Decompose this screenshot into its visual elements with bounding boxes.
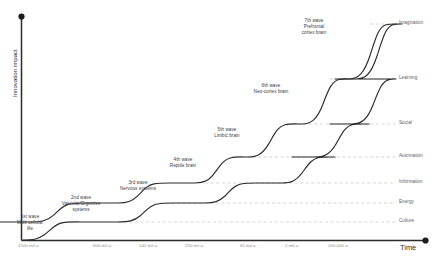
innovation-waves-diagram: Innovation impact Time Imagination Learn… — [0, 0, 443, 263]
gridlines — [118, 24, 396, 222]
level-label-information: Information — [399, 179, 423, 184]
wave-label-4: 4th wave Reptile brain — [157, 157, 209, 169]
level-label-imagination: Imagination — [399, 20, 423, 25]
level-label-energy: Energy — [399, 199, 414, 204]
x-tick-2: 2 mil a. — [285, 243, 299, 248]
wave-label-2: 2nd wave Vascular/Digestive systems — [50, 195, 112, 213]
level-label-culture: Culture — [399, 218, 414, 223]
wave-label-5: 5th wave Limbic brain — [201, 127, 253, 139]
wave-label-7: 7th wave Prefrontal cortex brain — [290, 18, 338, 36]
level-label-automation: Automation — [399, 153, 423, 158]
level-label-social: Social — [399, 120, 412, 125]
level-label-learning: Learning — [399, 75, 417, 80]
x-tick-200k: 200.000 a. — [328, 243, 349, 248]
x-axis-cap-dot — [422, 237, 428, 243]
y-axis-title: Innovation impact — [11, 49, 18, 97]
x-axis-title: Time — [400, 243, 416, 252]
wave-label-3: 3rd wave Nervous systems — [110, 180, 166, 192]
y-axis-cap-dot — [18, 13, 24, 19]
x-tick-542: 542 mil a. — [139, 243, 158, 248]
x-tick-600: 600 mil a. — [93, 243, 112, 248]
x-axis — [22, 237, 429, 243]
wave-label-1: 1st wave Multi cellular life — [6, 214, 54, 232]
x-tick-250: 250 mil a. — [185, 243, 204, 248]
y-axis — [18, 13, 24, 240]
x-tick-1500: 1500 mil a. — [18, 243, 40, 248]
x-tick-65: 65 mil a. — [240, 243, 257, 248]
wave-label-6: 6th wave Neo-cortex brain — [240, 83, 302, 95]
